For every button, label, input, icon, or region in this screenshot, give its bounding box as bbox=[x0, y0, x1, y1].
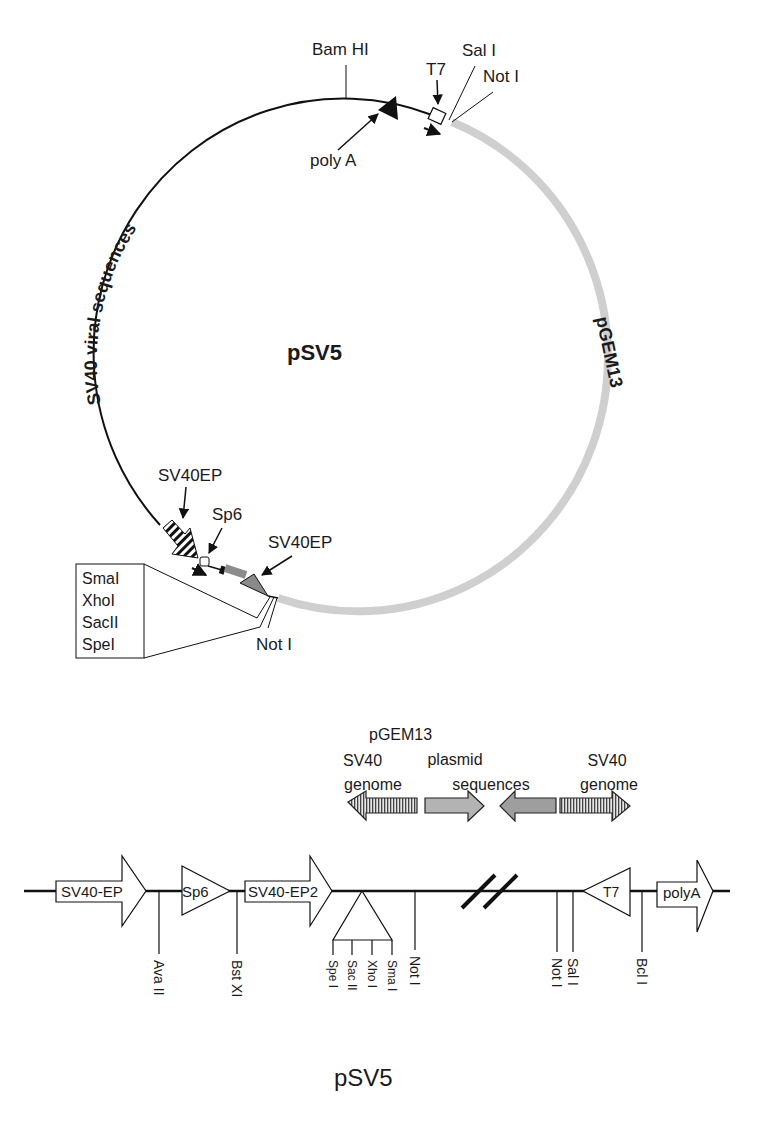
sv40ep2-label: SV40EP bbox=[268, 533, 332, 552]
sv40ep-hatched-arrow-icon bbox=[163, 520, 198, 558]
noti1-site-label: Not I bbox=[407, 956, 423, 986]
sv40ep1-label: SV40EP bbox=[158, 466, 222, 485]
sv40-left-legend-line2: genome bbox=[344, 776, 402, 793]
t7-label: T7 bbox=[426, 60, 446, 79]
t7-promoter-box bbox=[428, 108, 446, 125]
pgem-left-arrow-icon bbox=[500, 791, 556, 821]
sacii-site-label: Sac II bbox=[345, 960, 359, 991]
legend-arrows: pGEM13 SV40 plasmid SV40 genome sequence… bbox=[343, 726, 638, 821]
mcs-sacii: SacII bbox=[82, 614, 118, 631]
mcs-spei: SpeI bbox=[82, 636, 115, 653]
sv40ep2-element-label: SV40-EP2 bbox=[248, 883, 318, 900]
plasmid-name: pSV5 bbox=[287, 340, 342, 365]
linear-map-title: pSV5 bbox=[334, 1064, 393, 1091]
sv40-left-arrow-icon bbox=[348, 791, 417, 820]
t7-element-label: T7 bbox=[603, 884, 620, 900]
avaii-site-label: Ava II bbox=[151, 960, 167, 996]
t7-direction-arrow-icon bbox=[424, 128, 440, 134]
sv40-right-arrow-icon bbox=[560, 791, 630, 821]
sp6-promoter-box bbox=[200, 557, 209, 566]
linear-map: SV40-EP Ava II Sp6 Bst XI SV40-EP2 Spe I… bbox=[24, 856, 730, 1091]
spei-site-label: Spe I bbox=[326, 960, 340, 988]
noti-top-label: Not I bbox=[483, 67, 519, 86]
sv40-viral-label: SV40 viral sequences bbox=[81, 219, 140, 406]
bstxi-site-label: Bst XI bbox=[229, 960, 245, 997]
xhoi-site-label: Xho I bbox=[365, 960, 379, 988]
sv40ep-element-label: SV40-EP bbox=[61, 883, 123, 900]
pgem-legend-line3: sequences bbox=[452, 776, 529, 793]
sv40-right-legend-line2: genome bbox=[580, 776, 638, 793]
sp6-element-label: Sp6 bbox=[182, 883, 209, 900]
pgem-right-arrow-icon bbox=[425, 791, 484, 821]
circular-map: Bam HI poly A T7 Sal I Not I pSV5 SV40 v… bbox=[76, 40, 627, 658]
polya-marker-icon bbox=[378, 96, 398, 120]
noti2-site-label: Not I bbox=[549, 958, 565, 988]
sv40-arc bbox=[94, 99, 432, 525]
sali-site-label: Sal I bbox=[565, 958, 581, 986]
polya-element-label: polyA bbox=[663, 884, 701, 901]
plasmid-diagram: Bam HI poly A T7 Sal I Not I pSV5 SV40 v… bbox=[0, 0, 766, 1126]
mcs-smai: SmaI bbox=[82, 570, 119, 587]
sp6-label: Sp6 bbox=[212, 505, 242, 524]
mcs-triangle-icon bbox=[333, 891, 392, 940]
bamhi-label: Bam HI bbox=[312, 40, 369, 59]
sp6-direction-arrow-icon bbox=[192, 568, 206, 575]
bcli-site-label: Bcl I bbox=[634, 958, 650, 985]
sv40-left-legend-line1: SV40 bbox=[343, 752, 382, 769]
sv40-right-legend-line1: SV40 bbox=[587, 752, 626, 769]
mcs-xhoi: XhoI bbox=[82, 592, 115, 609]
pgem-legend-line2: plasmid bbox=[427, 751, 482, 768]
pgem13-label: pGEM13 bbox=[592, 315, 627, 390]
sali-label: Sal I bbox=[462, 41, 496, 60]
smai-site-label: Sma I bbox=[385, 960, 399, 991]
noti-bottom-label: Not I bbox=[256, 635, 292, 654]
pgem-legend-line1: pGEM13 bbox=[369, 726, 432, 743]
polya-label: poly A bbox=[310, 151, 357, 170]
